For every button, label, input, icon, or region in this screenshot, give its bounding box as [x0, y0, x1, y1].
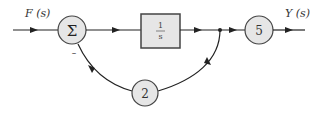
block-denominator: s — [158, 32, 162, 41]
input-signal — [13, 27, 58, 33]
summing-junction: Σ — [58, 16, 86, 44]
output-signal — [273, 27, 305, 33]
forward-signal — [86, 27, 141, 33]
sigma-symbol: Σ — [67, 22, 78, 40]
output-label: Y (s) — [285, 7, 310, 20]
arrow-icon — [30, 27, 38, 33]
arrow-icon — [194, 27, 202, 33]
feedback-path-up — [78, 44, 132, 91]
input-label: F (s) — [24, 7, 50, 20]
arrow-icon — [285, 27, 293, 33]
feedback-gain-value: 2 — [141, 87, 149, 101]
block-numerator: 1 — [158, 21, 163, 30]
arrow-icon — [112, 27, 120, 33]
feedback-sign: – — [72, 48, 77, 58]
block-diagram: F (s) Σ – 1 s 5 Y (s) 2 — [0, 0, 321, 114]
arrow-icon — [204, 57, 211, 65]
output-gain-value: 5 — [255, 24, 263, 38]
forward-block: 1 s — [141, 14, 180, 48]
output-gain-block: 5 — [245, 16, 273, 44]
block-output-signal — [180, 27, 245, 33]
feedback-gain-block: 2 — [132, 80, 158, 106]
arrow-icon — [229, 27, 237, 33]
